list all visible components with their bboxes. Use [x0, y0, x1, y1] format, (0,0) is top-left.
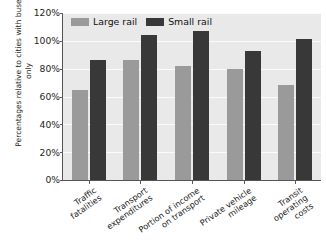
y-tick-mark — [60, 152, 63, 153]
bar-small-rail — [90, 60, 106, 180]
y-tick-label: 120% — [22, 8, 60, 17]
x-tick-mark — [192, 181, 193, 184]
x-tick-mark — [89, 181, 90, 184]
legend-swatch-icon — [146, 18, 164, 26]
plot-area: Large railSmall rail — [63, 13, 321, 180]
y-tick-mark — [60, 13, 63, 14]
legend-label: Large rail — [93, 17, 137, 26]
x-tick-mark — [295, 181, 296, 184]
y-tick-label: 60% — [22, 92, 60, 101]
y-tick-mark — [60, 180, 63, 181]
y-tick-label: 100% — [22, 36, 60, 45]
bar-large-rail — [175, 66, 191, 180]
y-tick-label: 80% — [22, 64, 60, 73]
legend-entry-large-rail[interactable]: Large rail — [71, 17, 137, 26]
x-axis-category-labels: Traffic fatalitiesTransport expenditures… — [0, 181, 326, 243]
x-tick-mark — [140, 181, 141, 184]
bar-group — [175, 13, 209, 180]
bar-group — [227, 13, 261, 180]
legend-swatch-icon — [71, 18, 89, 26]
bar-large-rail — [123, 60, 139, 180]
y-tick-mark — [60, 124, 63, 125]
chart-legend: Large railSmall rail — [71, 15, 212, 28]
x-tick-mark — [244, 181, 245, 184]
bar-group — [278, 13, 312, 180]
y-tick-label: 40% — [22, 120, 60, 129]
y-tick-mark — [60, 97, 63, 98]
bar-large-rail — [278, 85, 294, 180]
y-tick-mark — [60, 41, 63, 42]
legend-entry-small-rail[interactable]: Small rail — [146, 17, 212, 26]
bar-small-rail — [296, 39, 312, 180]
bar-chart: Percentages relative to cities with buse… — [0, 0, 326, 250]
bar-small-rail — [245, 51, 261, 180]
bar-large-rail — [227, 69, 243, 180]
bar-group — [123, 13, 157, 180]
bar-group — [72, 13, 106, 180]
y-tick-label: 20% — [22, 148, 60, 157]
y-tick-mark — [60, 69, 63, 70]
bar-small-rail — [141, 35, 157, 180]
legend-label: Small rail — [168, 17, 212, 26]
bar-small-rail — [193, 31, 209, 180]
bar-large-rail — [72, 90, 88, 180]
